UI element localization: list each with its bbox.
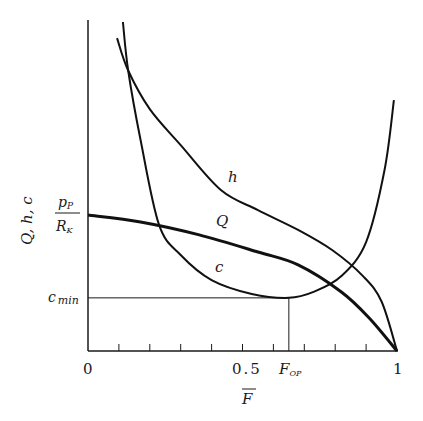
y-axis-title: Q, h, c xyxy=(18,196,36,245)
curve-Q xyxy=(88,215,397,351)
x-tick-label-1: 1 xyxy=(393,360,403,378)
curve-c-label: c xyxy=(215,258,224,276)
x-axis-ticks xyxy=(119,344,366,351)
x-tick-label-0: 0 xyxy=(83,360,93,378)
curve-Q-label: Q xyxy=(216,212,228,230)
fop-label: FOP xyxy=(278,360,302,378)
pp-rk-label: pP RK xyxy=(55,194,80,235)
svg-text:F: F xyxy=(241,390,253,408)
x-tick-label-0.5: 0.5 xyxy=(232,360,262,378)
x-axis-title: F xyxy=(241,389,256,408)
svg-text:RK: RK xyxy=(55,218,74,235)
curve-h-label: h xyxy=(228,168,238,186)
cmin-label: cmin xyxy=(48,289,79,307)
curve-c xyxy=(123,22,394,298)
svg-text:pP: pP xyxy=(58,194,74,211)
chart: h Q c Q, h, c pP RK cmin 0 0.5 1 FOP F xyxy=(0,0,423,421)
